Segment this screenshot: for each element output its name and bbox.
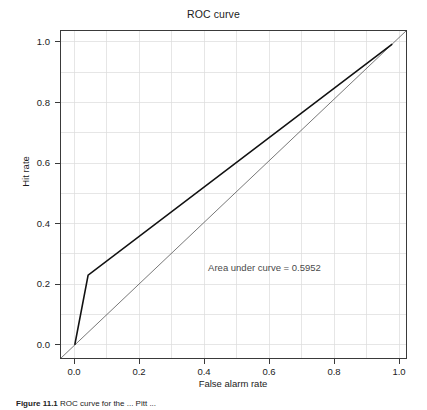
y-tick-label-4: 0.8 (18, 97, 50, 108)
y-tick-label-1: 0.2 (18, 278, 50, 289)
x-tick-label-0: 0.0 (54, 366, 94, 377)
y-tick-label-0: 0.0 (18, 339, 50, 350)
plot-area (0, 0, 427, 410)
figure-caption-label: Figure 11.1 (16, 399, 58, 408)
x-tick-label-5: 1.0 (379, 366, 419, 377)
x-axis-label: False alarm rate (60, 378, 406, 389)
y-tick-label-2: 0.4 (18, 218, 50, 229)
x-tick-label-2: 0.4 (184, 366, 224, 377)
y-axis-ticks (55, 42, 61, 345)
auc-annotation: Area under curve = 0.5952 (208, 262, 321, 273)
x-tick-label-4: 0.8 (314, 366, 354, 377)
x-tick-label-1: 0.2 (119, 366, 159, 377)
y-tick-label-5: 1.0 (18, 36, 50, 47)
x-axis-ticks (74, 359, 399, 365)
y-axis-label: Hit rate (20, 137, 31, 207)
figure-caption: Figure 11.1 ROC curve for the ... Pitt .… (16, 399, 156, 410)
figure-caption-text: ROC curve for the ... Pitt ... (60, 399, 156, 408)
roc-curve-figure: ROC curve (0, 0, 427, 410)
x-tick-label-3: 0.6 (249, 366, 289, 377)
